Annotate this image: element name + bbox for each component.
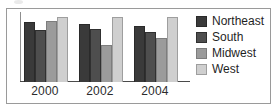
bar-2004-south xyxy=(145,32,156,82)
bar-2000-midwest xyxy=(46,21,57,82)
bar-2002-south xyxy=(90,29,101,82)
chart-figure: 2000 2002 2004 Northeast South Midwest W… xyxy=(0,0,277,112)
legend-label-south: South xyxy=(212,31,243,44)
legend-item-south: South xyxy=(196,30,274,45)
legend-item-midwest: Midwest xyxy=(196,46,274,61)
bar-group-2002 xyxy=(79,13,123,82)
x-tick-label-2000: 2000 xyxy=(24,84,66,98)
legend-label-midwest: Midwest xyxy=(212,47,256,60)
bar-group-2000 xyxy=(24,13,68,82)
x-tick-label-2002: 2002 xyxy=(79,84,121,98)
legend-swatch-west-icon xyxy=(196,64,207,75)
legend-item-northeast: Northeast xyxy=(196,14,274,29)
bar-2000-south xyxy=(35,30,46,82)
bar-2002-northeast xyxy=(79,24,90,82)
x-tick-label-2004: 2004 xyxy=(134,84,176,98)
legend-swatch-south-icon xyxy=(196,32,207,43)
bar-2000-northeast xyxy=(24,22,35,82)
legend-label-northeast: Northeast xyxy=(212,15,264,28)
bar-2000-west xyxy=(57,17,68,82)
bar-group-2004 xyxy=(134,13,178,82)
bar-2002-midwest xyxy=(101,45,112,82)
bar-2004-northeast xyxy=(134,26,145,82)
bar-2004-west xyxy=(167,17,178,82)
plot-area xyxy=(20,12,188,82)
chart-legend: Northeast South Midwest West xyxy=(196,14,274,78)
scan-artifact-speck xyxy=(14,0,23,4)
legend-swatch-midwest-icon xyxy=(196,48,207,59)
legend-label-west: West xyxy=(212,63,239,76)
bar-2004-midwest xyxy=(156,38,167,82)
bar-2002-west xyxy=(112,17,123,82)
legend-item-west: West xyxy=(196,62,274,77)
legend-swatch-northeast-icon xyxy=(196,16,207,27)
